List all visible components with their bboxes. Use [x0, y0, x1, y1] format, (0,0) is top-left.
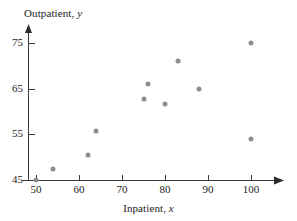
x-tick-label: 100 [240, 183, 262, 195]
x-tick-label: 50 [25, 183, 47, 195]
data-point [94, 129, 99, 134]
data-point [249, 41, 254, 46]
data-point [51, 167, 56, 172]
data-point [85, 152, 90, 157]
data-point [163, 101, 168, 106]
data-point [145, 82, 150, 87]
x-tick-label: 90 [197, 183, 219, 195]
data-point [175, 59, 180, 64]
x-axis-arrowhead [274, 177, 284, 185]
y-tick-label: 65 [5, 82, 23, 94]
y-tick-label: 55 [5, 127, 23, 139]
y-tick-label: 75 [5, 36, 23, 48]
scatter-plot-figure: Outpatient, y Inpatient, x 5060708090100… [0, 0, 297, 221]
data-point [197, 87, 202, 92]
x-tick-label: 60 [68, 183, 90, 195]
x-tick-label: 70 [111, 183, 133, 195]
data-point [249, 136, 254, 141]
x-tick-label: 80 [154, 183, 176, 195]
data-point [141, 97, 146, 102]
y-axis-arrowhead [25, 24, 32, 33]
y-tick-label: 45 [5, 173, 23, 185]
tick-marks [29, 44, 252, 181]
data-point [34, 178, 39, 183]
